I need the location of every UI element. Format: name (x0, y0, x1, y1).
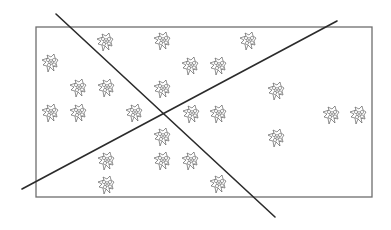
flower-icon (210, 175, 226, 193)
flower-icon (70, 79, 86, 97)
flower-icon (154, 128, 170, 146)
flower-icon (210, 57, 226, 75)
lines-group (22, 14, 337, 217)
flower-icon (154, 32, 170, 50)
descending-line (56, 14, 275, 217)
flower-icon (182, 57, 198, 75)
flower-icon (154, 152, 170, 170)
flower-icon (98, 176, 114, 194)
flower-icon (323, 106, 339, 124)
flower-icon (182, 152, 198, 170)
flower-icon (268, 129, 284, 147)
flowers-group (42, 32, 366, 194)
flower-icon (97, 33, 113, 51)
flower-icon (183, 105, 199, 123)
flower-icon (98, 152, 114, 170)
flower-icon (126, 104, 142, 122)
flower-icon (42, 54, 58, 72)
flower-icon (42, 104, 58, 122)
diagram-canvas (0, 0, 391, 230)
flower-icon (350, 106, 366, 124)
flower-icon (154, 80, 170, 98)
flower-icon (70, 104, 86, 122)
flower-icon (240, 32, 256, 50)
flower-icon (98, 79, 114, 97)
flower-icon (210, 105, 226, 123)
flower-icon (268, 82, 284, 100)
ascending-line (22, 21, 337, 189)
rectangle-frame (36, 27, 372, 197)
